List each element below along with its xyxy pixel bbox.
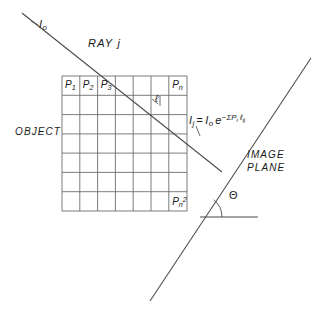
formula-exp-base: e bbox=[215, 114, 222, 126]
object-label: OBJECT bbox=[15, 126, 61, 137]
incident-intensity-label: Io bbox=[39, 18, 47, 32]
object-grid bbox=[62, 76, 187, 211]
image-plane-label-line2: PLANE bbox=[247, 162, 285, 173]
grid-cell-label-symbol: P bbox=[172, 196, 179, 207]
grid-cell-label-symbol: P bbox=[83, 79, 90, 90]
grid-cell-label-subscript: n bbox=[179, 83, 183, 92]
image-plane-line bbox=[150, 58, 311, 301]
grid-cell-label-subscript: 3 bbox=[107, 83, 111, 92]
formula-exponent-ell-subscript: ij bbox=[242, 116, 245, 123]
ray-line bbox=[22, 13, 222, 172]
grid-cell-label-symbol: P bbox=[172, 79, 179, 90]
grid-cell-label: P2 bbox=[83, 79, 94, 92]
grid-cell-label-subscript: 2 bbox=[90, 83, 94, 92]
grid-cell-label: Pn bbox=[172, 79, 183, 92]
ray-label: RAY j bbox=[88, 37, 121, 49]
path-length-label: ℓ bbox=[155, 93, 159, 104]
grid-cell-label-subscript: 1 bbox=[72, 83, 76, 92]
image-plane-label: IMAGEPLANE bbox=[247, 148, 285, 174]
incident-intensity-subscript: o bbox=[43, 23, 47, 32]
grid-cell-label: P3 bbox=[101, 79, 112, 92]
grid-cell-label: Pn2 bbox=[172, 195, 187, 209]
grid-cell-label-symbol: P bbox=[65, 79, 72, 90]
formula-i0-subscript: o bbox=[209, 119, 213, 128]
tomography-ray-diagram: RAY j Io OBJECT Ij=Ioe−ΣPiℓij IMAGEPLANE… bbox=[0, 0, 327, 321]
image-plane-label-line1: IMAGE bbox=[247, 149, 285, 160]
formula-equals: = bbox=[196, 114, 203, 126]
grid-cell-label-superscript: 2 bbox=[183, 195, 187, 204]
attenuation-formula: Ij=Ioe−ΣPiℓij bbox=[189, 113, 245, 128]
angle-theta-label: Θ bbox=[229, 189, 238, 201]
grid-cell-label: P1 bbox=[65, 79, 76, 92]
formula-lhs-subscript: j bbox=[193, 119, 195, 128]
i0-leader-line bbox=[31, 21, 38, 25]
formula-exponent-p-subscript: i bbox=[237, 116, 238, 123]
grid-outer-border bbox=[62, 76, 187, 211]
